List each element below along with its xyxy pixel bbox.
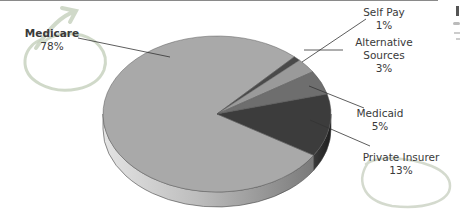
chart-frame: Medicare78%Self Pay1%AlternativeSources3… [0,0,460,216]
data-label-name-self-pay: Self Pay [363,6,405,18]
data-label-name-medicare: Medicare [25,27,79,39]
data-label-value-private-insurer: 13% [389,164,412,176]
data-label-name-private-insurer: Private Insurer [363,151,440,163]
annotation-circle-medicare [25,34,105,90]
data-label-value-medicaid: 5% [372,120,389,132]
data-label-value-medicare: 78% [40,40,63,52]
top-border [0,0,438,1]
data-label-value-self-pay: 1% [376,19,393,31]
data-label-value-alternative-sources: 3% [376,62,393,74]
cropped-edge-mark [456,6,459,16]
cropped-edge-mark [456,38,460,40]
leader-line-medicare [78,38,170,57]
cropped-edge-mark [454,32,460,34]
data-label-name-alternative-sources: Alternative [355,36,413,48]
pie-chart: Medicare78%Self Pay1%AlternativeSources3… [0,0,460,216]
pie-slices [103,36,331,192]
data-label-name-alternative-sources: Sources [363,49,405,61]
data-label-name-medicaid: Medicaid [357,107,404,119]
cropped-edge-mark [453,22,460,25]
